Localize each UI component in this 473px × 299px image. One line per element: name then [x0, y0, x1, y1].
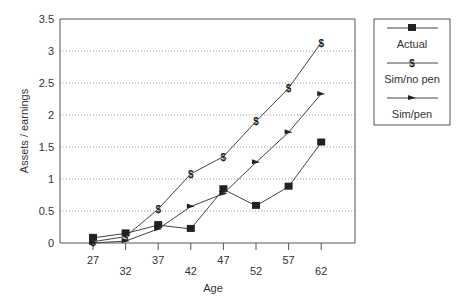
data-point-sim-no-pen: $ [188, 169, 194, 180]
gridlines [60, 51, 355, 211]
y-tick-labels: 00.511.522.533.5 [39, 13, 54, 249]
x-tick-label: 42 [185, 265, 197, 277]
series-line-sim-no-pen [93, 43, 321, 242]
y-tick-label: 0.5 [39, 205, 54, 217]
series-line-actual [93, 143, 321, 238]
legend-label-actual: Actual [397, 38, 428, 50]
y-tick-label: 1 [48, 173, 54, 185]
data-point-sim-pen [187, 204, 195, 209]
data-point-actual [317, 139, 325, 146]
series-group: $$$$$$$$ [89, 38, 325, 248]
legend-label-sim-pen: Sim/pen [392, 108, 432, 120]
y-axis-title: Assets / earnings [18, 88, 30, 173]
y-tick-label: 3.5 [39, 13, 54, 25]
y-tick-label: 1.5 [39, 141, 54, 153]
legend: Actual$Sim/no penSim/pen [374, 19, 450, 125]
legend-marker-actual [408, 24, 416, 31]
y-tick-label: 0 [48, 237, 54, 249]
y-tick-label: 2.5 [39, 77, 54, 89]
data-point-actual [187, 225, 195, 232]
x-tick-label: 27 [87, 254, 99, 266]
data-point-sim-pen [317, 91, 325, 96]
data-point-sim-no-pen: $ [155, 204, 161, 215]
x-tick-labels: 2732374247525762 [87, 243, 327, 277]
data-point-actual [252, 202, 260, 209]
data-point-sim-no-pen: $ [286, 83, 292, 94]
data-point-sim-no-pen: $ [221, 152, 227, 163]
x-axis-title: Age [203, 282, 223, 294]
x-tick-label: 32 [119, 265, 131, 277]
data-point-sim-no-pen: $ [318, 38, 324, 49]
x-tick-label: 47 [217, 254, 229, 266]
x-tick-label: 52 [250, 265, 262, 277]
x-tick-label: 37 [152, 254, 164, 266]
line-chart: 00.511.522.533.5 2732374247525762 $$$$$$… [0, 0, 473, 299]
legend-label-sim-no-pen: Sim/no pen [384, 73, 440, 85]
data-point-sim-no-pen: $ [253, 116, 259, 127]
data-point-actual [285, 183, 293, 190]
legend-marker-sim-no-pen: $ [409, 58, 415, 69]
data-point-sim-pen [285, 129, 293, 134]
y-tick-label: 3 [48, 45, 54, 57]
series-line-sim-pen [93, 94, 321, 243]
y-tick-label: 2 [48, 109, 54, 121]
x-tick-label: 57 [282, 254, 294, 266]
x-tick-label: 62 [315, 265, 327, 277]
